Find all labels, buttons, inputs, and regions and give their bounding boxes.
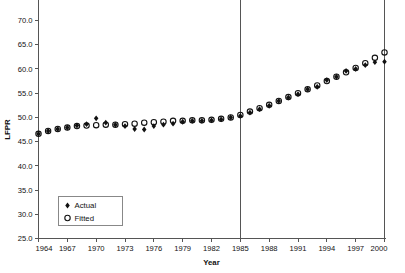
legend-label-actual: Actual — [75, 201, 97, 210]
point-fitted-1970 — [93, 122, 98, 127]
point-actual-1974 — [132, 126, 137, 132]
chart-legend: ActualFitted — [59, 197, 123, 226]
x-tick-label: 1967 — [59, 244, 76, 253]
point-actual-1978 — [171, 121, 176, 127]
point-actual-1988 — [267, 103, 272, 109]
x-tick-label: 1997 — [347, 244, 364, 253]
x-tick-label: 1973 — [117, 244, 134, 253]
y-tick-label: 65.0 — [18, 40, 33, 49]
y-axis-title: LFPR — [3, 119, 12, 140]
point-actual-1975 — [142, 127, 147, 133]
x-tick-label: 1991 — [290, 244, 307, 253]
point-actual-1970 — [94, 115, 99, 121]
y-tick-label: 35.0 — [18, 186, 33, 195]
point-actual-1997 — [353, 66, 358, 72]
y-tick-label: 40.0 — [18, 162, 33, 171]
point-actual-1991 — [296, 91, 301, 97]
y-tick-label: 60.0 — [18, 65, 33, 74]
point-actual-1986 — [248, 110, 253, 116]
point-actual-1985 — [238, 113, 243, 119]
x-tick-label: 1994 — [318, 244, 335, 253]
chart-screenshot: 25.030.035.040.045.050.055.060.065.070.0… — [0, 0, 405, 273]
x-tick-label: 1964 — [36, 244, 53, 253]
point-actual-1977 — [161, 122, 166, 128]
point-actual-1973 — [123, 123, 128, 129]
lfpr-scatter-chart: 25.030.035.040.045.050.055.060.065.070.0… — [0, 0, 405, 273]
y-tick-label: 30.0 — [18, 210, 33, 219]
point-actual-1996 — [344, 68, 349, 74]
y-tick-label: 55.0 — [18, 89, 33, 98]
y-tick-label: 45.0 — [18, 137, 33, 146]
x-tick-label: 1970 — [88, 244, 105, 253]
point-actual-2000 — [382, 59, 387, 65]
x-tick-label: 1988 — [261, 244, 278, 253]
point-fitted-1974 — [132, 121, 137, 126]
point-actual-1971 — [104, 120, 109, 126]
y-tick-label: 70.0 — [18, 16, 33, 25]
point-actual-1969 — [84, 121, 89, 127]
x-tick-label: 1982 — [203, 244, 220, 253]
x-tick-label: 1985 — [232, 244, 249, 253]
y-tick-label: 25.0 — [18, 234, 33, 243]
y-tick-label: 50.0 — [18, 113, 33, 122]
legend-label-fitted: Fitted — [75, 214, 95, 223]
point-actual-1993 — [315, 84, 320, 90]
point-actual-1979 — [180, 119, 185, 125]
x-tick-label: 1976 — [145, 244, 162, 253]
series-fitted — [36, 50, 387, 137]
point-fitted-1975 — [142, 120, 147, 125]
reference-lines — [240, 0, 384, 239]
x-tick-label: 2000 — [371, 244, 388, 253]
point-actual-1998 — [363, 62, 368, 68]
x-axis-title: Year — [203, 258, 219, 267]
point-actual-1987 — [257, 106, 262, 112]
x-tick-label: 1979 — [174, 244, 191, 253]
point-actual-1994 — [325, 77, 330, 83]
data-points — [36, 50, 387, 137]
